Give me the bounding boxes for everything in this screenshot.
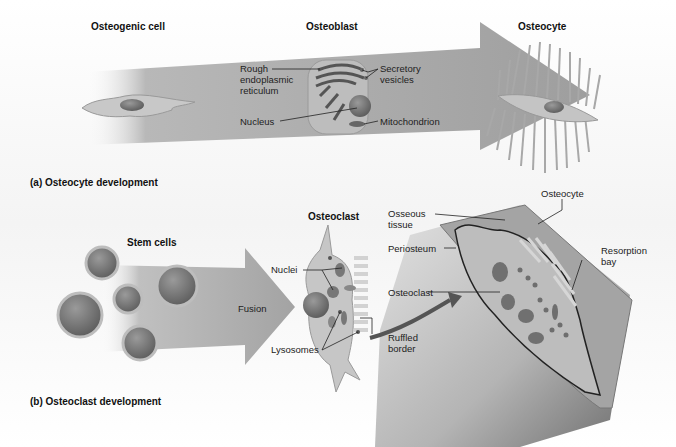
label-ruffled-2: border xyxy=(388,343,415,354)
label-nucleus: Nucleus xyxy=(240,116,274,127)
label-osseous-2: tissue xyxy=(388,219,413,230)
label-osteoclast-bone: Osteoclast xyxy=(388,287,433,298)
label-rer-1: Rough xyxy=(240,63,268,74)
label-osteogenic-cell: Osteogenic cell xyxy=(91,21,165,32)
caption-panel-a: (a) Osteocyte development xyxy=(30,177,158,188)
label-fusion: Fusion xyxy=(238,303,267,314)
label-osteoblast: Osteoblast xyxy=(306,21,358,32)
label-osteocyte: Osteocyte xyxy=(518,21,566,32)
label-osteocyte-bone: Osteocyte xyxy=(541,188,584,199)
label-resorption-1: Resorption xyxy=(601,245,647,256)
label-stem-cells: Stem cells xyxy=(127,237,176,248)
bone-cell-diagram: Osteogenic cell Osteoblast Osteocyte Rou… xyxy=(0,0,676,447)
label-secretory-1: Secretory xyxy=(380,63,421,74)
label-lysosomes: Lysosomes xyxy=(271,344,319,355)
osteoblast-cell xyxy=(308,60,371,134)
label-osteoclast-title: Osteoclast xyxy=(308,211,359,222)
label-nuclei: Nuclei xyxy=(271,264,297,275)
label-mitochondrion: Mitochondrion xyxy=(380,116,440,127)
diagram-artwork xyxy=(0,0,676,447)
label-periosteum: Periosteum xyxy=(388,243,436,254)
caption-panel-b: (b) Osteoclast development xyxy=(30,396,161,407)
label-rer-3: reticulum xyxy=(240,85,279,96)
label-resorption-2: bay xyxy=(601,256,616,267)
label-ruffled-1: Ruffled xyxy=(388,332,418,343)
label-secretory-2: vesicles xyxy=(380,74,414,85)
label-rer-2: endoplasmic xyxy=(240,74,293,85)
label-osseous-1: Osseous xyxy=(388,208,426,219)
